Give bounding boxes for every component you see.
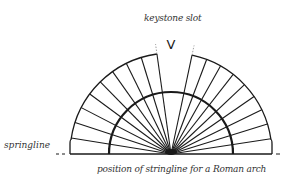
radial-joint-line: [90, 94, 171, 154]
radial-joint-line: [171, 55, 192, 154]
springer-left-edge: [70, 140, 71, 154]
springer-right-edge: [271, 140, 272, 154]
keystone-slot-guide: [192, 45, 194, 55]
radial-joint-line: [113, 72, 171, 154]
center-point: [165, 149, 177, 155]
radial-joint-line: [171, 85, 244, 154]
springline-label: springline: [4, 140, 50, 150]
inner-arc: [109, 92, 233, 154]
keystone-marker-icon: V: [167, 37, 176, 52]
radial-joint-line: [171, 97, 254, 154]
keystone-slot-guide: [156, 44, 157, 54]
radial-joint-line: [171, 74, 233, 154]
stringline-label: position of stringline for a Roman arch: [97, 164, 266, 174]
arch-diagram: V: [0, 0, 292, 182]
radial-joint-line: [75, 122, 171, 154]
keystone-slot-label: keystone slot: [144, 13, 201, 23]
